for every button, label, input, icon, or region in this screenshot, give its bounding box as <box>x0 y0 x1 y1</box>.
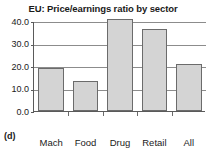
x-axis-tick-mark <box>103 112 104 116</box>
x-axis-label-all: All <box>172 137 206 148</box>
bar-drug <box>107 19 132 111</box>
y-axis-tick-mark <box>31 112 35 113</box>
y-axis-tick-mark <box>31 90 35 91</box>
chart-title: EU: Price/earnings ratio by sector <box>0 3 206 14</box>
x-axis-tick-mark <box>68 112 69 116</box>
y-axis-tick-mark <box>31 67 35 68</box>
y-axis-tick-label: 0.0 <box>0 108 29 117</box>
figure-panel: EU: Price/earnings ratio by sector 0.010… <box>0 0 206 149</box>
bar-mach <box>38 68 63 111</box>
y-axis-tick-label: 20.0 <box>0 63 29 72</box>
y-axis-tick-label: 30.0 <box>0 40 29 49</box>
bar-all <box>176 64 201 111</box>
bar-food <box>73 81 98 111</box>
y-axis-tick-mark <box>31 22 35 23</box>
x-axis-label-retail: Retail <box>137 137 171 148</box>
x-axis-label-mach: Mach <box>34 137 68 148</box>
x-axis-tick-mark <box>137 112 138 116</box>
plot-area: 0.010.020.030.040.0MachFoodDrugRetailAll <box>33 22 205 112</box>
y-axis-tick-label: 40.0 <box>0 18 29 27</box>
y-axis-tick-label: 10.0 <box>0 85 29 94</box>
x-axis-tick-mark <box>172 112 173 116</box>
bar-retail <box>142 29 167 111</box>
figure-caption: (d) <box>4 131 16 141</box>
y-axis-tick-mark <box>31 45 35 46</box>
x-axis-label-drug: Drug <box>103 137 137 148</box>
x-axis-label-food: Food <box>68 137 102 148</box>
